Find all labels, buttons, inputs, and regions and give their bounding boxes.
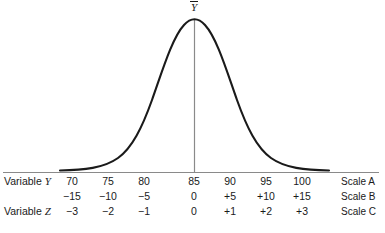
- row-label-variable-z: Variable Z: [4, 204, 51, 219]
- tick-value: +10: [246, 189, 286, 204]
- tick-value: +3: [282, 204, 322, 219]
- tick-value: +15: [282, 189, 322, 204]
- tick-value: 80: [124, 174, 164, 189]
- scale-name-a: Scale A: [341, 174, 375, 189]
- tick-value: −5: [124, 189, 164, 204]
- curve-plot-area: [0, 0, 385, 176]
- scale-rows: Variable Y 70 75 80 85 90 95 100 Scale A…: [0, 174, 385, 219]
- scale-name-b: Scale B: [341, 189, 375, 204]
- row-label-symbol-a: Y: [45, 175, 51, 187]
- row-label-prefix-c: Variable: [4, 205, 42, 217]
- tick-value: −1: [124, 204, 164, 219]
- tick-value: 75: [88, 174, 128, 189]
- scale-row-a: Variable Y 70 75 80 85 90 95 100 Scale A: [0, 174, 385, 189]
- tick-value: 70: [52, 174, 92, 189]
- tick-value: +1: [210, 204, 250, 219]
- row-label-prefix-a: Variable: [4, 175, 42, 187]
- tick-value: +5: [210, 189, 250, 204]
- tick-value: −10: [88, 189, 128, 204]
- normal-curve-figure: Y Variable Y 70 75 80 85 90 95 100 Scale…: [0, 0, 385, 233]
- mean-symbol-glyph: Y: [180, 2, 208, 13]
- tick-value: 0: [174, 204, 214, 219]
- tick-value: −3: [52, 204, 92, 219]
- scale-row-b: −15 −10 −5 0 +5 +10 +15 Scale B: [0, 189, 385, 204]
- tick-value: +2: [246, 204, 286, 219]
- row-label-variable-y: Variable Y: [4, 174, 51, 189]
- scale-name-c: Scale C: [341, 204, 376, 219]
- tick-value: −15: [52, 189, 92, 204]
- mean-symbol-label: Y: [180, 1, 208, 13]
- row-label-symbol-c: Z: [45, 205, 51, 217]
- tick-value: 90: [210, 174, 250, 189]
- tick-value: 85: [174, 174, 214, 189]
- tick-value: 95: [246, 174, 286, 189]
- scale-row-c: Variable Z −3 −2 −1 0 +1 +2 +3 Scale C: [0, 204, 385, 219]
- tick-value: −2: [88, 204, 128, 219]
- tick-value: 0: [174, 189, 214, 204]
- tick-value: 100: [282, 174, 322, 189]
